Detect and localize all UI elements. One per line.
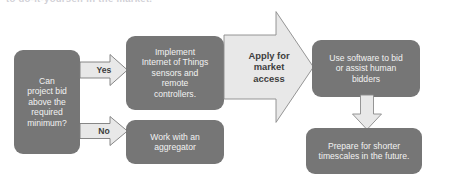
- decision-can-project-bid: Can project bid above the required minim…: [14, 50, 80, 154]
- arrow-apply-for-market-access-icon: [224, 11, 314, 123]
- step-use-software-to-bid-label: Use software to bid or assist human bidd…: [316, 53, 416, 84]
- step-use-software-to-bid: Use software to bid or assist human bidd…: [312, 40, 420, 97]
- step-work-with-aggregator-label: Work with an aggregator: [130, 132, 220, 153]
- step-work-with-aggregator: Work with an aggregator: [126, 120, 224, 164]
- step-implement-iot: Implement Internet of Things sensors and…: [126, 36, 224, 110]
- step-prepare-shorter-timescales-label: Prepare for shorter timescales in the fu…: [310, 141, 418, 162]
- step-implement-iot-label: Implement Internet of Things sensors and…: [130, 47, 220, 99]
- arrow-yes: Yes: [80, 54, 128, 86]
- step-prepare-shorter-timescales: Prepare for shorter timescales in the fu…: [306, 128, 422, 174]
- arrow-yes-icon: [80, 54, 128, 86]
- arrow-no: No: [80, 116, 128, 146]
- arrow-down: [352, 95, 382, 130]
- arrow-apply-for-market-access: Apply for market access: [224, 11, 314, 123]
- decision-can-project-bid-label: Can project bid above the required minim…: [18, 76, 76, 128]
- arrow-down-icon: [352, 95, 382, 130]
- clipped-heading-text: to do-it-yourself in the market.: [6, 0, 152, 4]
- arrow-no-icon: [80, 116, 128, 146]
- flowchart-canvas: to do-it-yourself in the market. Can pro…: [0, 0, 451, 182]
